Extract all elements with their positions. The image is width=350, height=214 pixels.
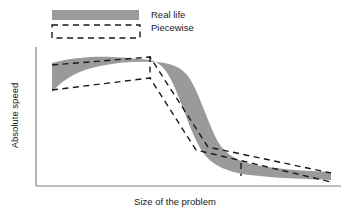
real-life-band: [52, 57, 331, 180]
legend-swatch-real-life: [52, 10, 139, 20]
y-axis-label: Absolute speed: [9, 56, 20, 176]
x-axis-label: Size of the problem: [0, 196, 350, 207]
legend-label-piecewise: Piecewise: [151, 22, 194, 33]
legend-label-real-life: Real life: [151, 9, 185, 20]
legend-group: [52, 10, 140, 38]
chart-figure: Real life Piecewise Size of the problem …: [0, 0, 350, 214]
real-life-band-group: [52, 57, 331, 180]
legend-swatch-piecewise: [52, 25, 140, 38]
